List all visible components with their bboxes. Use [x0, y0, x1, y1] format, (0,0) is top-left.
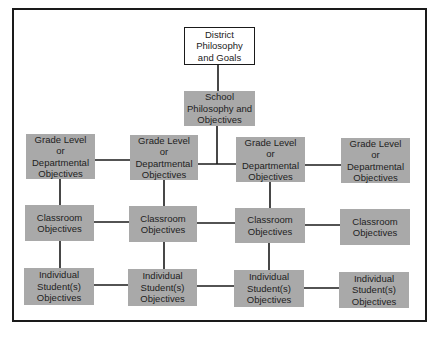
- node-text: School: [205, 91, 234, 103]
- node-text: Student(s): [141, 282, 185, 294]
- node-school-philosophy: School Philosophy and Objectives: [184, 91, 255, 126]
- node-grade-level-3: Grade Level or Departmental Objectives: [236, 137, 305, 182]
- node-text: Philosophy and: [187, 103, 252, 115]
- node-district-philosophy: District Philosophy and Goals: [184, 27, 255, 65]
- node-text: Objectives: [353, 227, 397, 239]
- node-text: Student(s): [247, 283, 291, 295]
- node-individual-student-4: Individual Student(s) Objectives: [339, 272, 409, 308]
- node-text: Classroom: [247, 214, 292, 226]
- node-classroom-1: Classroom Objectives: [25, 205, 94, 241]
- node-text: Classroom: [352, 216, 397, 228]
- node-text: Departmental: [242, 160, 299, 172]
- node-text: Departmental: [32, 157, 89, 169]
- node-text: or: [56, 145, 64, 157]
- node-text: Grade Level: [350, 138, 402, 150]
- node-text: Individual: [39, 269, 79, 281]
- node-text: District: [205, 29, 234, 41]
- node-text: and Goals: [198, 52, 241, 64]
- node-text: Individual: [354, 273, 394, 285]
- node-text: Objectives: [37, 223, 81, 235]
- node-text: Individual: [142, 270, 182, 282]
- node-text: Student(s): [37, 281, 81, 293]
- node-text: Objectives: [37, 292, 81, 304]
- node-text: Departmental: [347, 161, 404, 173]
- node-text: Objectives: [352, 296, 396, 308]
- node-text: or: [160, 146, 168, 158]
- node-text: Objectives: [248, 226, 292, 238]
- node-text: Objectives: [247, 294, 291, 306]
- node-text: Classroom: [37, 212, 82, 224]
- node-classroom-2: Classroom Objectives: [129, 206, 197, 242]
- node-text: Objectives: [140, 293, 184, 305]
- node-text: Philosophy: [196, 40, 242, 52]
- node-individual-student-1: Individual Student(s) Objectives: [24, 268, 94, 305]
- node-text: Grade Level: [138, 135, 190, 147]
- node-classroom-3: Classroom Objectives: [235, 208, 305, 243]
- node-text: or: [371, 149, 379, 161]
- node-grade-level-2: Grade Level or Departmental Objectives: [130, 135, 198, 180]
- node-text: Student(s): [352, 284, 396, 296]
- node-text: Individual: [249, 271, 289, 283]
- node-text: Objectives: [142, 169, 186, 181]
- node-grade-level-4: Grade Level or Departmental Objectives: [341, 138, 410, 183]
- node-text: Objectives: [197, 114, 241, 126]
- node-text: Departmental: [135, 158, 192, 170]
- node-text: or: [266, 148, 274, 160]
- node-text: Grade Level: [35, 134, 87, 146]
- node-individual-student-3: Individual Student(s) Objectives: [234, 270, 304, 307]
- node-text: Grade Level: [245, 137, 297, 149]
- node-individual-student-2: Individual Student(s) Objectives: [128, 269, 197, 306]
- node-text: Objectives: [248, 171, 292, 183]
- node-classroom-4: Classroom Objectives: [340, 209, 410, 245]
- node-text: Objectives: [353, 172, 397, 184]
- node-text: Classroom: [140, 213, 185, 225]
- node-grade-level-1: Grade Level or Departmental Objectives: [26, 134, 95, 179]
- node-text: Objectives: [38, 168, 82, 180]
- node-text: Objectives: [141, 224, 185, 236]
